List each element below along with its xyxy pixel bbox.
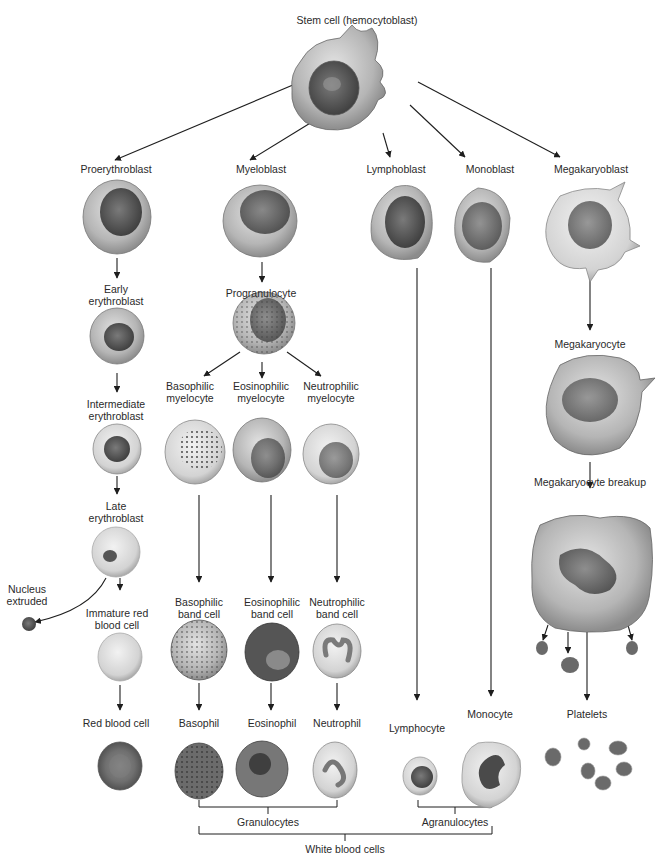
label-lymphocyte: Lymphocyte bbox=[389, 722, 445, 735]
label-early-erythroblast-line2: erythroblast bbox=[89, 295, 144, 308]
label-neutrophilic-band-cell-line2: band cell bbox=[316, 608, 358, 621]
late-erythroblast-icon bbox=[92, 527, 140, 577]
monocyte-icon bbox=[462, 742, 521, 808]
label-red-blood-cell: Red blood cell bbox=[83, 717, 150, 730]
basophilic-myelocyte-icon bbox=[165, 420, 225, 484]
megakaryoblast-icon bbox=[546, 182, 640, 282]
label-basophilic-myelocyte-line2: myelocyte bbox=[166, 392, 213, 405]
label-intermediate-erythroblast-line2: erythroblast bbox=[89, 410, 144, 423]
hematopoiesis-diagram bbox=[0, 0, 657, 860]
label-eosinophil: Eosinophil bbox=[248, 717, 296, 730]
stem-cell-icon bbox=[292, 25, 386, 130]
progranulocyte-icon bbox=[233, 292, 295, 354]
label-late-erythroblast-line1: Late bbox=[106, 500, 126, 513]
label-megakaryoblast: Megakaryoblast bbox=[554, 163, 628, 176]
label-basophilic-band-cell-line1: Basophilic bbox=[175, 596, 223, 609]
label-monoblast: Monoblast bbox=[466, 163, 514, 176]
label-granulocytes: Granulocytes bbox=[237, 816, 299, 829]
intermediate-erythroblast-icon bbox=[93, 424, 141, 474]
eosinophilic-band-cell-icon bbox=[245, 623, 299, 681]
eosinophil-icon bbox=[236, 741, 288, 797]
lymphocyte-icon bbox=[403, 757, 437, 795]
early-erythroblast-icon bbox=[90, 308, 144, 364]
label-immature-rbc-line2: blood cell bbox=[95, 619, 139, 632]
label-nucleus-extruded-line1: Nucleus bbox=[8, 583, 46, 596]
label-nucleus-extruded-line2: extruded bbox=[7, 595, 48, 608]
label-megakaryocyte: Megakaryocyte bbox=[554, 338, 625, 351]
label-neutrophilic-myelocyte-line1: Neutrophilic bbox=[303, 380, 358, 393]
label-neutrophilic-band-cell-line1: Neutrophilic bbox=[309, 596, 364, 609]
label-late-erythroblast-line2: erythroblast bbox=[89, 512, 144, 525]
label-immature-rbc-line1: Immature red bbox=[86, 607, 148, 620]
label-basophil: Basophil bbox=[179, 717, 219, 730]
nucleus-extruded-icon bbox=[22, 617, 36, 631]
proerythroblast-icon bbox=[83, 180, 151, 254]
label-eosinophilic-myelocyte-line2: myelocyte bbox=[237, 392, 284, 405]
label-progranulocyte: Progranulocyte bbox=[226, 287, 297, 300]
label-white-blood-cells: White blood cells bbox=[305, 843, 384, 856]
basophilic-band-cell-icon bbox=[171, 620, 227, 680]
label-agranulocytes: Agranulocytes bbox=[422, 816, 489, 829]
label-eosinophilic-band-cell-line1: Eosinophilic bbox=[244, 596, 300, 609]
neutrophilic-myelocyte-icon bbox=[303, 424, 359, 484]
label-basophilic-band-cell-line2: band cell bbox=[178, 608, 220, 621]
label-intermediate-erythroblast-line1: Intermediate bbox=[87, 398, 145, 411]
myeloblast-icon bbox=[223, 185, 297, 257]
eosinophilic-myelocyte-icon bbox=[233, 418, 291, 482]
monoblast-icon bbox=[455, 188, 510, 262]
label-basophilic-myelocyte-line1: Basophilic bbox=[166, 380, 214, 393]
label-early-erythroblast-line1: Early bbox=[104, 283, 128, 296]
label-eosinophilic-myelocyte-line1: Eosinophilic bbox=[233, 380, 289, 393]
neutrophil-icon bbox=[313, 742, 357, 798]
label-neutrophilic-myelocyte-line2: myelocyte bbox=[307, 392, 354, 405]
lymphoblast-icon bbox=[371, 185, 432, 259]
label-lymphoblast: Lymphoblast bbox=[366, 163, 425, 176]
label-platelets: Platelets bbox=[567, 708, 607, 721]
immature-rbc-icon bbox=[98, 633, 142, 681]
red-blood-cell-icon bbox=[98, 742, 142, 790]
platelets-icon bbox=[545, 738, 632, 790]
megakaryocyte-icon bbox=[546, 355, 655, 455]
label-stem-cell: Stem cell (hemocytoblast) bbox=[297, 14, 418, 27]
label-monocyte: Monocyte bbox=[467, 708, 513, 721]
label-myeloblast: Myeloblast bbox=[236, 163, 286, 176]
label-proerythroblast: Proerythroblast bbox=[80, 163, 151, 176]
neutrophilic-band-cell-icon bbox=[313, 624, 361, 678]
basophil-icon bbox=[175, 743, 223, 799]
label-megakaryocyte-breakup: Megakaryocyte breakup bbox=[534, 476, 646, 489]
label-eosinophilic-band-cell-line2: band cell bbox=[251, 608, 293, 621]
megakaryocyte-breakup-icon bbox=[532, 515, 653, 673]
label-neutrophil: Neutrophil bbox=[313, 717, 361, 730]
